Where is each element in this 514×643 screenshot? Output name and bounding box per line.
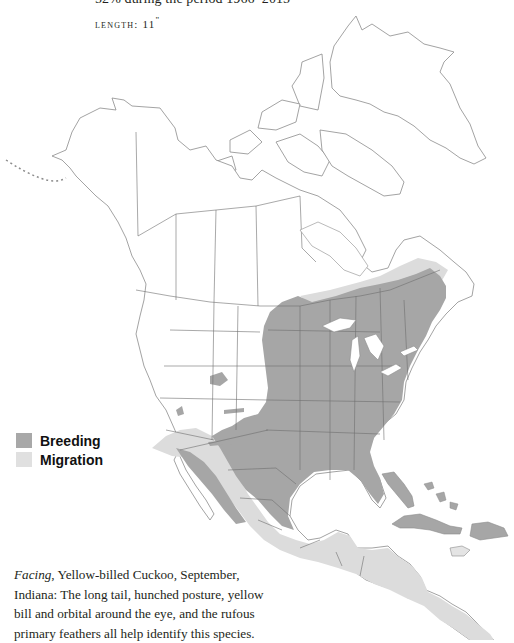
caribbean-migration xyxy=(450,546,470,556)
bahamas xyxy=(424,482,458,510)
legend-label-breeding: Breeding xyxy=(40,433,101,449)
caption-lead: Facing xyxy=(14,567,51,582)
migration-swatch xyxy=(16,452,32,467)
baffin-island xyxy=(320,130,404,196)
legend-item-breeding: Breeding xyxy=(16,431,103,450)
aleutian-islands xyxy=(6,160,66,181)
caption-text: , Yellow-billed Cuckoo, September, India… xyxy=(14,567,264,641)
arctic-island-1 xyxy=(292,54,324,110)
photo-caption: Facing, Yellow-billed Cuckoo, September,… xyxy=(14,565,264,643)
arctic-island-2 xyxy=(258,100,300,130)
legend-label-migration: Migration xyxy=(40,452,103,468)
legend-item-migration: Migration xyxy=(16,450,103,469)
breeding-swatch xyxy=(16,433,32,448)
florida xyxy=(382,472,414,508)
map-legend: Breeding Migration xyxy=(16,431,103,469)
cuba xyxy=(392,514,462,534)
arctic-island-3 xyxy=(230,130,262,154)
hispaniola xyxy=(470,522,508,540)
